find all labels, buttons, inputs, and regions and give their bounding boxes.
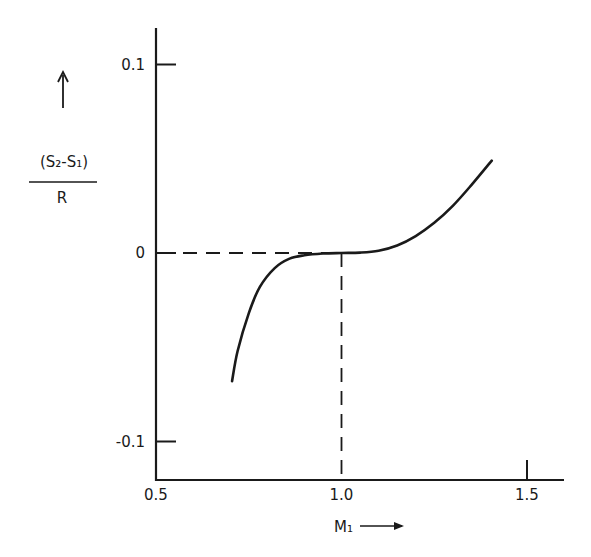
y-axis-label: (S₂-S₁) R bbox=[29, 72, 97, 207]
chart: 0.10-0.1 0.51.01.5 (S₂-S₁) R M₁ bbox=[0, 0, 591, 557]
y-tick-label: 0.1 bbox=[121, 56, 145, 74]
x-tick-label: 1.5 bbox=[515, 486, 539, 504]
x-axis-label: M₁ bbox=[334, 518, 404, 536]
x-tick-label: 0.5 bbox=[144, 486, 168, 504]
y-tick-label: 0 bbox=[135, 244, 145, 262]
y-label-numerator: (S₂-S₁) bbox=[40, 153, 88, 171]
x-label-text: M₁ bbox=[334, 518, 353, 536]
data-curve bbox=[232, 161, 492, 382]
x-tick-label: 1.0 bbox=[330, 486, 354, 504]
y-label-denominator: R bbox=[57, 189, 67, 207]
y-tick-label: -0.1 bbox=[116, 433, 145, 451]
right-arrow-head-icon bbox=[394, 522, 404, 530]
